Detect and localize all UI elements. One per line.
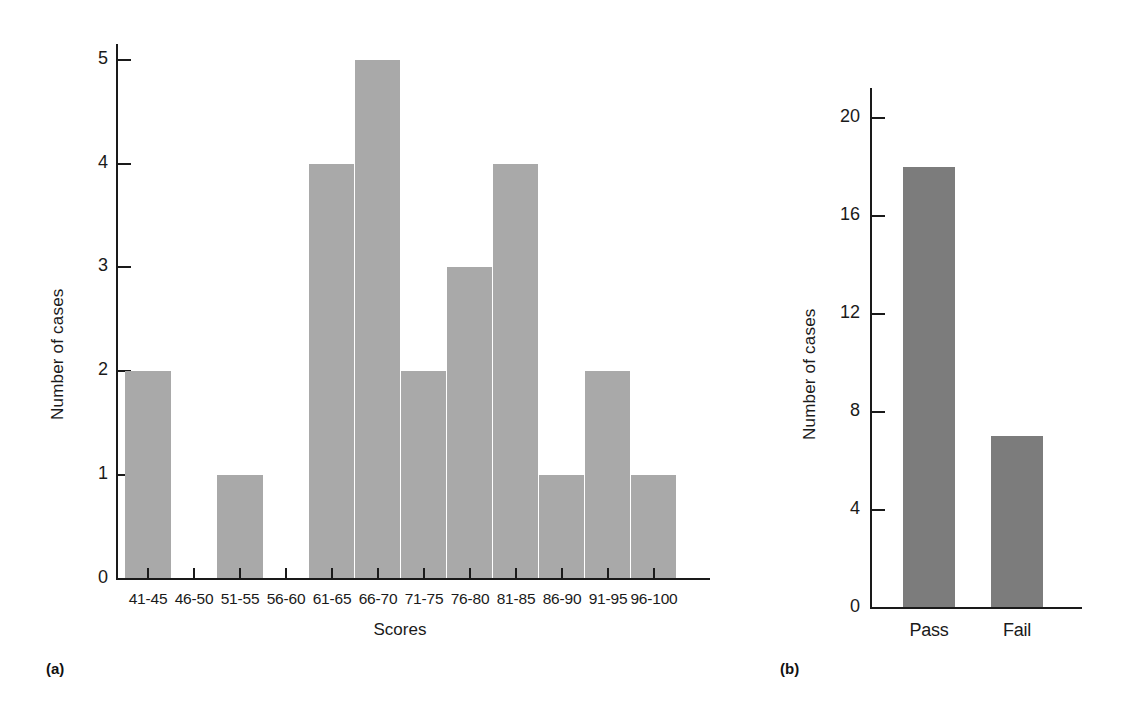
- y-tick-a-3: [118, 266, 131, 268]
- bar-81-85: [493, 164, 538, 578]
- x-tick-a-2: [239, 568, 241, 580]
- y-tick-b-8: [872, 411, 885, 413]
- y-tick-b-20: [872, 117, 885, 119]
- bar-96-100: [631, 475, 676, 578]
- x-axis-title-a: Scores: [345, 620, 455, 640]
- y-axis-title-a: Number of cases: [48, 289, 68, 421]
- bar-61-65: [309, 164, 354, 578]
- x-tick-label-pass: Pass: [884, 620, 974, 641]
- y-tick-label-a-4: 4: [68, 152, 108, 173]
- x-axis-line-b: [870, 607, 1082, 609]
- bar-91-95: [585, 371, 630, 578]
- x-tick-a-11: [653, 568, 655, 580]
- y-tick-label-a-3: 3: [68, 255, 108, 276]
- y-tick-label-a-1: 1: [68, 463, 108, 484]
- y-tick-label-b-0: 0: [812, 596, 860, 617]
- x-tick-a-8: [515, 568, 517, 580]
- bar-71-75: [401, 371, 446, 578]
- x-tick-a-4: [331, 568, 333, 580]
- y-tick-label-b-20: 20: [812, 106, 860, 127]
- y-tick-label-b-12: 12: [812, 302, 860, 323]
- x-tick-a-5: [377, 568, 379, 580]
- bar-41-45: [125, 371, 171, 578]
- x-tick-a-6: [423, 568, 425, 580]
- y-tick-a-5: [118, 59, 131, 61]
- figure-canvas: Number of cases 5 4 3 2 1 0: [0, 0, 1121, 713]
- y-tick-b-16: [872, 215, 885, 217]
- chart-panel-a: Number of cases 5 4 3 2 1 0: [0, 0, 760, 713]
- y-tick-label-b-16: 16: [812, 204, 860, 225]
- y-axis-line-a: [116, 44, 118, 580]
- bar-76-80: [447, 267, 492, 578]
- subfigure-label-b: (b): [780, 660, 799, 677]
- x-tick-label-96-100: 96-100: [609, 590, 699, 608]
- y-tick-label-b-8: 8: [812, 400, 860, 421]
- x-axis-line-a: [116, 578, 710, 580]
- subfigure-label-a: (a): [46, 660, 64, 677]
- bar-66-70: [355, 60, 400, 578]
- chart-panel-b: Number of cases 20 16 12 8 4 0 Pass Fail…: [760, 0, 1121, 713]
- y-axis-line-b: [870, 88, 872, 609]
- bar-86-90: [539, 475, 584, 578]
- y-tick-b-4: [872, 509, 885, 511]
- x-tick-a-3: [285, 568, 287, 580]
- x-tick-a-0: [147, 568, 149, 580]
- y-tick-b-12: [872, 313, 885, 315]
- y-tick-label-a-2: 2: [68, 359, 108, 380]
- bar-pass: [903, 167, 955, 607]
- y-tick-a-4: [118, 163, 131, 165]
- x-tick-a-7: [469, 568, 471, 580]
- y-tick-label-a-0: 0: [68, 567, 108, 588]
- y-tick-label-b-4: 4: [812, 498, 860, 519]
- x-tick-a-9: [561, 568, 563, 580]
- x-tick-a-10: [607, 568, 609, 580]
- bar-fail: [991, 436, 1043, 607]
- y-tick-label-a-5: 5: [68, 48, 108, 69]
- bar-51-55: [217, 475, 263, 578]
- x-tick-label-fail: Fail: [972, 620, 1062, 641]
- x-tick-a-1: [193, 568, 195, 580]
